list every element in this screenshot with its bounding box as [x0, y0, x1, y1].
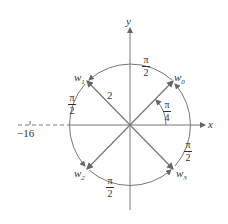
- diagram-canvas: [0, 0, 228, 224]
- angle-label: π4: [163, 100, 171, 123]
- arc-label-top: π2: [142, 55, 150, 78]
- modulus-label: 2: [107, 90, 113, 101]
- label-w2: w2: [74, 168, 85, 182]
- x-axis-label: x: [208, 119, 213, 130]
- vector-w1: [87, 81, 130, 125]
- label-w3: w3: [176, 168, 187, 182]
- vector-w3: [130, 125, 173, 169]
- label-w0: w0: [174, 72, 185, 86]
- y-axis-label: y: [126, 16, 131, 27]
- vector-w2: [87, 125, 130, 169]
- arc-label-left: π2: [68, 93, 76, 116]
- arc-label-bottom: π2: [106, 176, 114, 199]
- tick-label: −16: [17, 128, 34, 139]
- label-w1: w1: [74, 72, 85, 86]
- arc-label-right: π2: [184, 140, 192, 163]
